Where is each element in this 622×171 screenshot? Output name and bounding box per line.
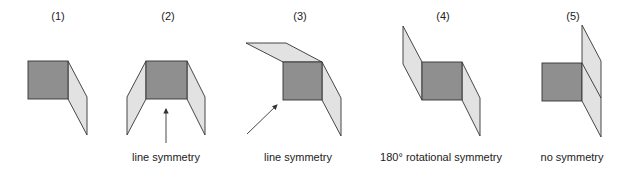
figure-3 (246, 43, 341, 136)
figure-4 (403, 26, 480, 136)
square-face (28, 61, 68, 99)
figure-label: no symmetry (541, 151, 604, 163)
figure-1 (28, 61, 87, 135)
figure-number: (4) (436, 10, 449, 22)
right-flap (322, 62, 341, 136)
figure-label: line symmetry (132, 151, 200, 163)
right-flap (187, 61, 205, 135)
square-face (542, 63, 582, 101)
square-face (283, 62, 322, 100)
symmetry-axis-arrow (247, 105, 277, 134)
figure-number: (2) (161, 10, 174, 22)
figure-number: (1) (51, 10, 64, 22)
square-face (422, 62, 462, 100)
figure-label: line symmetry (264, 151, 332, 163)
left-flap (127, 61, 146, 135)
square-face (146, 61, 187, 99)
top-flap (246, 43, 322, 62)
figure-label: 180° rotational symmetry (380, 151, 502, 163)
figure-number: (5) (566, 10, 579, 22)
flap (68, 61, 87, 135)
right-flap (462, 62, 480, 136)
figure-5 (542, 25, 601, 137)
figure-number: (3) (293, 10, 306, 22)
symmetry-diagram (0, 0, 622, 171)
left-flap (403, 26, 422, 100)
